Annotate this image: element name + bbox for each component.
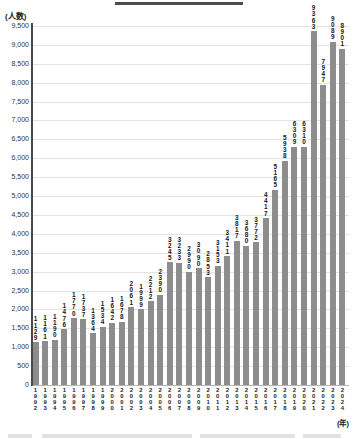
bar-value-label: 1 1 6 1 [41,315,49,339]
footer-note-illegible [303,434,341,438]
bar [263,218,269,385]
y-tick-label: 1,000 [2,343,29,350]
bar-value-label: 2 3 9 0 [156,269,164,293]
gridline [31,102,349,103]
bar [301,147,307,385]
bar-value-label: 1 1 2 9 [32,316,40,340]
x-tick-label: 2 0 0 1 [118,388,126,412]
bar [339,49,345,385]
y-tick-label: 3,500 [2,249,29,256]
bar-value-label: 1 5 3 4 [99,301,107,325]
bar-value-label: 6 3 1 0 [300,121,308,145]
y-axis-unit-label: (人数) [5,10,26,21]
bar-value-label: 3 4 1 1 [223,230,231,254]
bar [109,323,115,385]
x-tick-label: 2 0 1 3 [233,388,241,412]
y-tick-label: 8,000 [2,79,29,86]
bar-value-label: 1 6 4 2 [108,297,116,321]
y-tick-label: 9,500 [2,22,29,29]
x-tick-label: 1 9 9 3 [41,388,49,412]
bar-value-label: 1 7 7 0 [70,292,78,316]
bar-value-label: 3 8 1 7 [233,215,241,239]
gridline [31,26,349,27]
bar [119,322,125,385]
y-tick-label: 4,000 [2,230,29,237]
bar [272,190,278,385]
bar-value-label: 2 9 9 0 [185,246,193,270]
x-tick-label: 2 0 0 5 [156,388,164,412]
bar [71,318,77,385]
y-tick-label: 6,500 [2,135,29,142]
gridline [31,64,349,65]
x-tick-label: 2 0 2 4 [338,388,346,412]
bar [33,342,39,385]
x-tick-label: 2 0 1 4 [242,388,250,412]
bar-value-label: 3 0 9 0 [195,242,203,266]
bar [167,262,173,385]
x-tick-label: 2 0 1 6 [262,388,270,412]
x-tick-label: 2 0 0 8 [185,388,193,412]
bar-value-label: 1 6 7 8 [118,296,126,320]
x-tick-label: 2 0 0 0 [108,388,116,412]
bar-value-label: 3 7 7 2 [252,217,260,241]
x-tick-label: 2 0 2 1 [310,388,318,412]
bar-value-label: 5 1 6 5 [271,164,279,188]
bar [311,31,317,385]
x-tick-label: 1 9 9 2 [32,388,40,412]
bar [90,333,96,385]
x-tick-label: 2 0 0 4 [147,388,155,412]
bar-chart: (人数) (年) 05001,0001,5002,0002,5003,0003,… [0,0,353,439]
y-tick-label: 1,500 [2,324,29,331]
bar [320,85,326,385]
bar [291,147,297,385]
bar-value-label: 1 4 7 6 [60,303,68,327]
bar-value-label: 3 2 3 3 [175,237,183,261]
x-tick-label: 2 0 1 8 [281,388,289,412]
bar [215,266,221,385]
x-tick-label: 2 0 0 9 [195,388,203,412]
y-tick-label: 500 [2,362,29,369]
footer-note-illegible [200,434,295,438]
bar [330,42,336,385]
bar [138,309,144,385]
x-axis-line [31,385,349,386]
bar [61,329,67,385]
x-tick-label: 1 9 9 4 [51,388,59,412]
x-tick-label: 2 0 2 0 [300,388,308,412]
bar [186,272,192,385]
bar-value-label: 3 2 4 5 [166,237,174,261]
bar [157,295,163,385]
bar-value-label: 4 4 1 7 [262,192,270,216]
bar-value-label: 2 8 5 3 [204,251,212,275]
x-tick-label: 2 0 1 5 [252,388,260,412]
bar-value-label: 8 9 0 1 [338,23,346,47]
x-tick-label: 2 0 0 6 [166,388,174,412]
bar-value-label: 2 0 6 1 [127,281,135,305]
bar [196,268,202,385]
bar [148,301,154,385]
x-tick-label: 1 9 9 5 [60,388,68,412]
bar [282,161,288,385]
bar [176,263,182,385]
x-tick-label: 2 0 1 2 [223,388,231,412]
x-tick-label: 2 0 1 1 [214,388,222,412]
bar [243,246,249,385]
bar-value-label: 3 1 5 3 [214,240,222,264]
y-tick-label: 2,000 [2,305,29,312]
y-tick-label: 4,500 [2,211,29,218]
y-tick-label: 5,000 [2,192,29,199]
x-tick-label: 2 0 0 3 [137,388,145,412]
x-tick-label: 2 0 1 7 [271,388,279,412]
x-tick-label: 2 0 2 3 [329,388,337,412]
y-tick-label: 6,000 [2,154,29,161]
bar-value-label: 6 3 0 9 [290,121,298,145]
gridline [31,83,349,84]
y-tick-label: 2,500 [2,287,29,294]
bar [205,277,211,385]
bar-value-label: 1 7 3 7 [79,294,87,318]
bar [253,242,259,385]
bar-value-label: 7 9 4 7 [319,59,327,83]
x-tick-label: 1 9 9 7 [79,388,87,412]
y-tick-label: 0 [2,381,29,388]
bar [234,241,240,385]
